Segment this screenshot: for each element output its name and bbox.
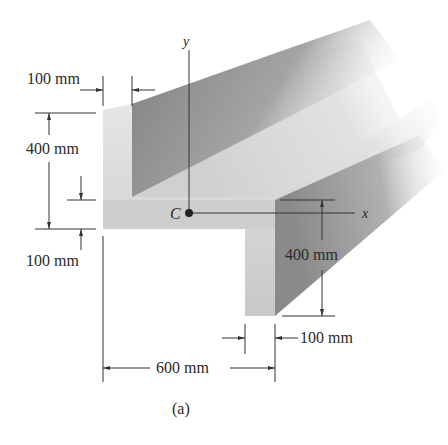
dim-right-leg-thickness: 100 mm xyxy=(300,329,353,346)
dim-left-height: 400 mm xyxy=(26,140,79,157)
figure-caption: (a) xyxy=(172,400,190,418)
dim-top-flange-thickness: 100 mm xyxy=(27,70,80,87)
y-axis-label: y xyxy=(181,34,190,49)
centroid-point xyxy=(185,209,193,217)
x-axis-label: x xyxy=(361,206,369,221)
z-section-diagram: y x C 100 mm 400 mm 100 mm 4 xyxy=(0,0,448,445)
dim-overall-width: 600 mm xyxy=(156,359,209,376)
section-body xyxy=(103,20,445,316)
dim-right-leg-height: 400 mm xyxy=(285,246,338,263)
centroid-label: C xyxy=(170,205,181,222)
dim-bottom-flange-thickness: 100 mm xyxy=(26,252,79,269)
